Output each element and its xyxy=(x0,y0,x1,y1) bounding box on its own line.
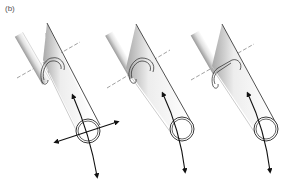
panel-3 xyxy=(191,24,278,171)
panel-1 xyxy=(15,23,117,176)
tube xyxy=(43,23,100,132)
diagram-canvas xyxy=(0,0,289,184)
panel-2 xyxy=(105,24,194,171)
end-ring xyxy=(254,117,278,141)
